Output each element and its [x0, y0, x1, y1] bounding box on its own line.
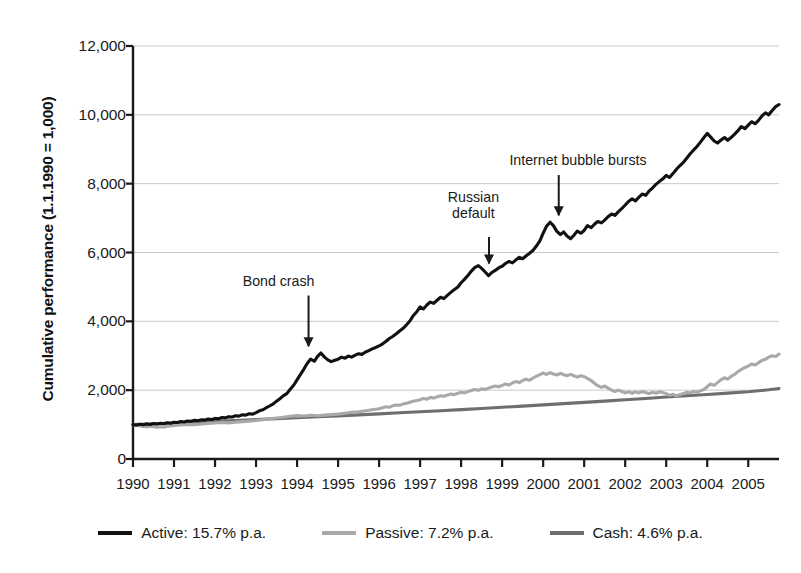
legend-item[interactable]: Active: 15.7% p.a.	[98, 524, 266, 542]
x-axis-tick-label: 1996	[362, 475, 395, 492]
annotation-arrow-head	[484, 255, 494, 265]
x-axis-tick-label: 2000	[526, 475, 559, 492]
x-axis-tick-label: 2002	[609, 475, 642, 492]
x-axis-tick-label: 2003	[650, 475, 683, 492]
x-axis-tick-label: 1990	[116, 475, 149, 492]
annotation-label: Internet bubble bursts	[509, 153, 646, 169]
legend-label: Active: 15.7% p.a.	[141, 524, 266, 542]
annotation-arrow-head	[304, 337, 314, 347]
legend-line-icon	[322, 531, 356, 535]
y-axis-tick-label: 12,000	[48, 37, 126, 55]
x-axis-tick-label: 1992	[198, 475, 231, 492]
x-axis-tick-label: 1999	[485, 475, 518, 492]
x-axis-tick-label: 1997	[403, 475, 436, 492]
legend-line-icon	[550, 531, 584, 535]
x-axis-tick-label: 2001	[567, 475, 600, 492]
y-axis-tick-label: 10,000	[48, 106, 126, 124]
x-axis-tick-label: 2005	[732, 475, 765, 492]
y-axis-tick-label: 0	[48, 450, 126, 468]
legend-label: Cash: 4.6% p.a.	[593, 524, 703, 542]
x-axis-tick-label: 1995	[321, 475, 354, 492]
legend-line-icon	[98, 531, 132, 535]
x-axis-tick-label: 1991	[157, 475, 190, 492]
chart-legend: Active: 15.7% p.a.Passive: 7.2% p.a.Cash…	[0, 524, 801, 542]
y-axis-tick-label: 2,000	[48, 381, 126, 399]
legend-item[interactable]: Passive: 7.2% p.a.	[322, 524, 493, 542]
y-axis-tick-label: 4,000	[48, 312, 126, 330]
annotation-label: Russian default	[448, 190, 499, 222]
x-axis-tick-label: 2004	[691, 475, 724, 492]
y-axis-tick-labels: 02,0004,0006,0008,00010,00012,000	[40, 0, 126, 573]
chart-container: Cumulative performance (1.1.1990 = 1,000…	[0, 0, 801, 573]
x-axis-tick-label: 1998	[444, 475, 477, 492]
annotation-arrow-head	[554, 206, 564, 216]
x-axis-tick-label: 1994	[280, 475, 313, 492]
annotation-label: Bond crash	[243, 274, 315, 290]
legend-label: Passive: 7.2% p.a.	[365, 524, 493, 542]
x-axis-tick-label: 1993	[239, 475, 272, 492]
series-line	[133, 105, 779, 426]
y-axis-tick-label: 8,000	[48, 175, 126, 193]
y-axis-tick-label: 6,000	[48, 244, 126, 262]
legend-item[interactable]: Cash: 4.6% p.a.	[550, 524, 703, 542]
